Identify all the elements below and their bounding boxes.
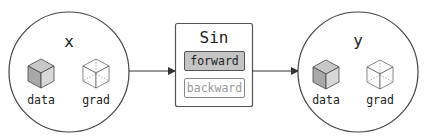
data-label: data xyxy=(312,93,340,107)
variable-circle xyxy=(9,12,129,132)
forward-label: forward xyxy=(190,54,238,68)
grad-label: grad xyxy=(82,93,110,107)
function-node-sin: Sin forward backward xyxy=(176,24,253,107)
backward-label: backward xyxy=(187,81,242,95)
grad-label: grad xyxy=(366,93,394,107)
data-label: data xyxy=(27,93,55,107)
backward-button[interactable]: backward xyxy=(185,79,245,98)
variable-name: x xyxy=(64,32,74,51)
variable-node-y: y data grad xyxy=(298,12,418,132)
function-name: Sin xyxy=(200,28,229,47)
forward-button[interactable]: forward xyxy=(185,52,245,71)
variable-node-x: x data grad xyxy=(9,12,129,132)
variable-name: y xyxy=(353,31,363,50)
diagram: x data grad Sin forward backward xyxy=(0,0,424,140)
